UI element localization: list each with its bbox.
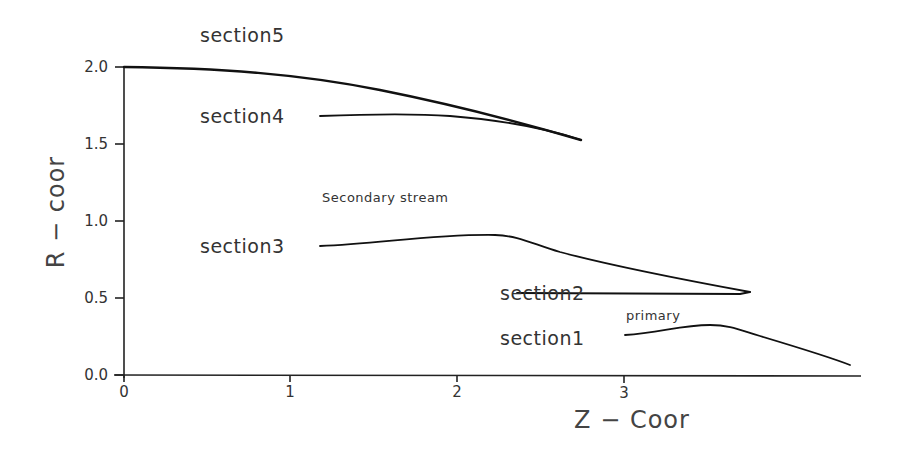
secondary-stream-label: Secondary stream: [322, 190, 449, 205]
section1-label: section1: [500, 327, 585, 349]
chart: 0.0 0.5 1.0 1.5 2.0 0 1 2 3 Z − Coor R −…: [0, 0, 901, 456]
y-tick-label: 1.5: [84, 135, 108, 153]
section5-label: section5: [200, 24, 285, 46]
y-tick-label: 0.5: [84, 289, 108, 307]
section5-curve: [124, 67, 581, 140]
section1-curve: [625, 325, 850, 365]
primary-label: primary: [626, 308, 680, 323]
x-axis-line: [114, 375, 861, 376]
y-tick-label: 2.0: [84, 58, 108, 76]
x-tick-label: 0: [119, 383, 129, 401]
section4-curve: [320, 114, 581, 140]
section2-label: section2: [500, 282, 585, 304]
x-tick-label: 2: [452, 383, 462, 401]
x-tick-labels: 0 1 2 3: [119, 383, 629, 402]
section3-label: section3: [200, 235, 285, 257]
x-tick-label: 3: [619, 384, 629, 402]
x-axis-title: Z − Coor: [574, 406, 690, 434]
y-axis-title: R − coor: [42, 156, 70, 268]
y-tick-label: 0.0: [84, 366, 108, 384]
x-tick-label: 1: [285, 383, 295, 401]
section4-label: section4: [200, 105, 285, 127]
y-tick-label: 1.0: [84, 212, 108, 230]
y-tick-labels: 0.0 0.5 1.0 1.5 2.0: [84, 58, 108, 384]
